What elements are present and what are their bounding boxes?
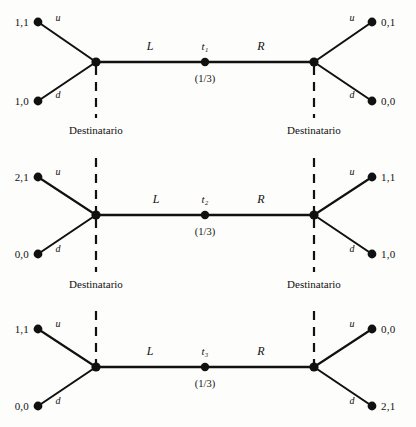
edge-row2-right-u xyxy=(314,177,372,215)
type-label-row1: t₁ xyxy=(202,40,209,52)
payoff-row2-left-u: 2,1 xyxy=(15,171,29,183)
type-label-row2: t₂ xyxy=(202,193,209,205)
type-node-row3 xyxy=(201,363,209,371)
edge-row3-right-d xyxy=(314,367,372,406)
decision-node-row3-left xyxy=(91,362,100,371)
edge-row1-left-d xyxy=(38,62,96,101)
receiver-label-row1-left: Destinatario xyxy=(69,124,123,136)
message-row2-left: L xyxy=(152,192,160,206)
decision-node-row1-left xyxy=(91,57,100,66)
game-row-3: 1,1 0,0 0,0 2,1 u d u d L R t₃ (1/3) xyxy=(15,311,396,412)
payoff-row1-left-d: 1,0 xyxy=(15,95,30,107)
edge-row1-right-u xyxy=(314,22,372,62)
action-row2-left-d: d xyxy=(56,243,62,254)
edge-row1-left-u xyxy=(38,22,96,62)
action-row2-left-u: u xyxy=(56,166,61,177)
decision-node-row2-left xyxy=(91,210,100,219)
game-tree-diagram: 1,1 1,0 0,1 0,0 u d u d L R t₁ (1/3) Des… xyxy=(0,0,416,427)
payoff-row3-right-d: 2,1 xyxy=(381,400,395,412)
terminal-node-row1-right-d xyxy=(368,97,377,106)
decision-node-row3-right xyxy=(309,362,318,371)
edge-row3-left-d xyxy=(38,367,96,406)
message-row2-right: R xyxy=(256,192,265,206)
game-row-1: 1,1 1,0 0,1 0,0 u d u d L R t₁ (1/3) Des… xyxy=(15,12,396,136)
edge-row2-left-u xyxy=(38,177,96,215)
action-row3-left-u: u xyxy=(56,318,61,329)
action-row3-right-u: u xyxy=(350,318,355,329)
receiver-label-row1-right: Destinatario xyxy=(287,124,341,136)
receiver-label-row2-left: Destinatario xyxy=(69,278,123,290)
payoff-row3-left-u: 1,1 xyxy=(15,323,29,335)
payoff-row2-right-d: 1,0 xyxy=(381,248,396,260)
action-row1-right-u: u xyxy=(350,12,355,23)
action-row1-left-d: d xyxy=(56,89,62,100)
message-row3-left: L xyxy=(146,344,154,358)
terminal-node-row1-left-u xyxy=(34,18,43,27)
payoff-row1-right-u: 0,1 xyxy=(381,16,395,28)
payoff-row3-right-u: 0,0 xyxy=(381,323,396,335)
terminal-node-row2-left-u xyxy=(34,173,43,182)
terminal-node-row3-right-u xyxy=(368,325,377,334)
message-row1-right: R xyxy=(256,39,265,53)
terminal-node-row2-right-u xyxy=(368,173,377,182)
type-node-row1 xyxy=(201,58,209,66)
terminal-node-row3-left-d xyxy=(34,402,43,411)
payoff-row2-left-d: 0,0 xyxy=(15,248,30,260)
decision-node-row1-right xyxy=(309,57,318,66)
type-label-row3: t₃ xyxy=(202,345,209,357)
signaling-game-svg: 1,1 1,0 0,1 0,0 u d u d L R t₁ (1/3) Des… xyxy=(0,0,416,427)
terminal-node-row3-left-u xyxy=(34,325,43,334)
terminal-node-row1-right-u xyxy=(368,18,377,27)
payoff-row1-right-d: 0,0 xyxy=(381,95,396,107)
action-row2-right-d: d xyxy=(350,243,356,254)
edge-row1-right-d xyxy=(314,62,372,101)
terminal-node-row1-left-d xyxy=(34,97,43,106)
probability-row1: (1/3) xyxy=(195,73,216,85)
edge-row2-right-d xyxy=(314,215,372,254)
terminal-node-row2-left-d xyxy=(34,250,43,259)
edge-row3-right-u xyxy=(314,329,372,367)
payoff-row2-right-u: 1,1 xyxy=(381,171,395,183)
game-row-2: 2,1 0,0 1,1 1,0 u d u d L R t₂ (1/3) Des… xyxy=(15,158,396,290)
terminal-node-row3-right-d xyxy=(368,402,377,411)
terminal-node-row2-right-d xyxy=(368,250,377,259)
action-row3-left-d: d xyxy=(56,395,62,406)
edge-row3-left-u xyxy=(38,329,96,367)
action-row1-left-u: u xyxy=(56,12,61,23)
message-row1-left: L xyxy=(146,39,154,53)
probability-row2: (1/3) xyxy=(195,226,216,238)
edge-row2-left-d xyxy=(38,215,96,254)
action-row2-right-u: u xyxy=(350,166,355,177)
probability-row3: (1/3) xyxy=(195,378,216,390)
action-row1-right-d: d xyxy=(350,89,356,100)
payoff-row1-left-u: 1,1 xyxy=(15,16,29,28)
payoff-row3-left-d: 0,0 xyxy=(15,400,30,412)
message-row3-right: R xyxy=(256,344,265,358)
type-node-row2 xyxy=(201,211,209,219)
decision-node-row2-right xyxy=(309,210,318,219)
action-row3-right-d: d xyxy=(350,395,356,406)
receiver-label-row2-right: Destinatario xyxy=(287,278,341,290)
